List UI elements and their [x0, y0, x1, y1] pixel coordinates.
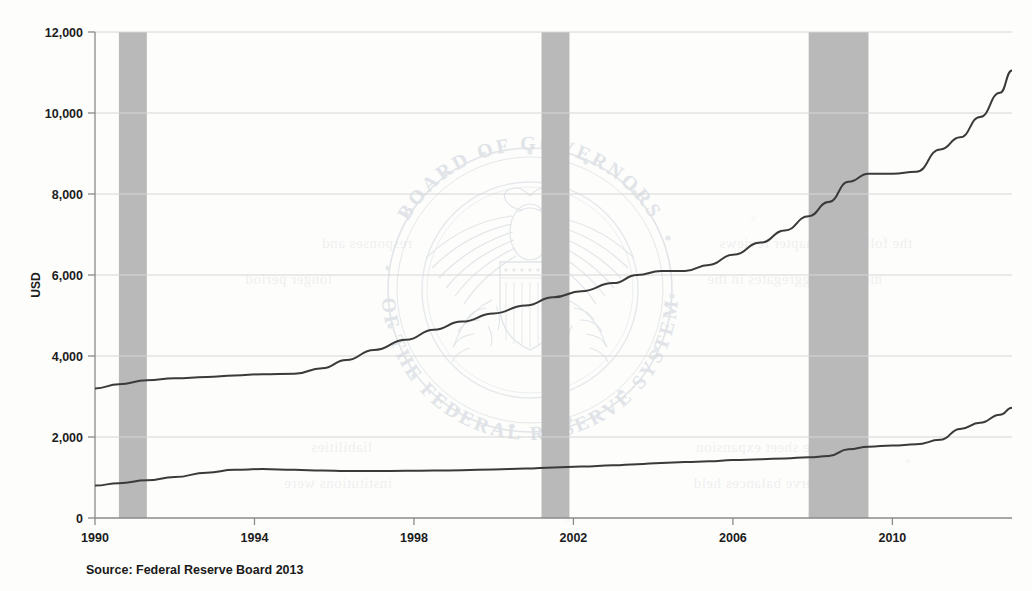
y-axis-ticks [88, 32, 95, 518]
x-tick-label: 1994 [241, 531, 269, 545]
x-axis-tick-labels: 199019941998200220062010 [81, 531, 906, 545]
x-tick-label: 1998 [400, 531, 428, 545]
y-axis-title: USD [29, 272, 43, 298]
watermark-top-arc-text: BOARD OF GOVERNORS [393, 132, 668, 223]
line-chart-svg: BOARD OF GOVERNORS OF THE FEDERAL RESERV… [0, 0, 1032, 591]
y-tick-label: 2,000 [52, 431, 83, 445]
y-tick-label: 8,000 [52, 188, 83, 202]
y-tick-label: 4,000 [52, 350, 83, 364]
x-axis-ticks [95, 518, 892, 525]
x-tick-label: 2002 [560, 531, 588, 545]
y-axis-tick-labels: 02,0004,0006,0008,00010,00012,000 [45, 26, 83, 526]
seal-olive-branch [452, 300, 500, 362]
y-tick-label: 10,000 [45, 107, 83, 121]
x-tick-label: 2010 [878, 531, 906, 545]
x-tick-label: 2006 [719, 531, 747, 545]
source-note: Source: Federal Reserve Board 2013 [86, 563, 303, 577]
y-tick-label: 0 [76, 512, 83, 526]
chart-figure: BOARD OF GOVERNORS OF THE FEDERAL RESERV… [0, 0, 1032, 591]
y-tick-label: 6,000 [52, 269, 83, 283]
y-tick-label: 12,000 [45, 26, 83, 40]
x-tick-label: 1990 [81, 531, 109, 545]
federal-reserve-seal-watermark: BOARD OF GOVERNORS OF THE FEDERAL RESERV… [378, 132, 682, 444]
